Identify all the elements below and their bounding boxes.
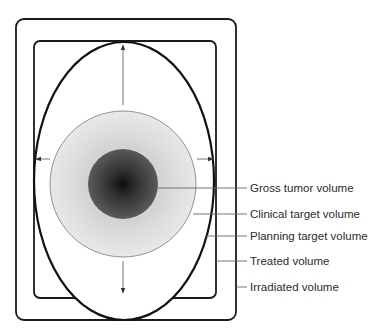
label-gross-tumor-volume: Gross tumor volume (250, 181, 354, 195)
label-irradiated-volume: Irradiated volume (250, 280, 339, 294)
label-planning-target-volume: Planning target volume (250, 229, 368, 243)
target-volume-diagram: Gross tumor volume Clinical target volum… (0, 0, 382, 331)
gross-tumor-volume-circle (88, 149, 158, 219)
label-treated-volume: Treated volume (250, 254, 329, 268)
label-clinical-target-volume: Clinical target volume (250, 207, 360, 221)
